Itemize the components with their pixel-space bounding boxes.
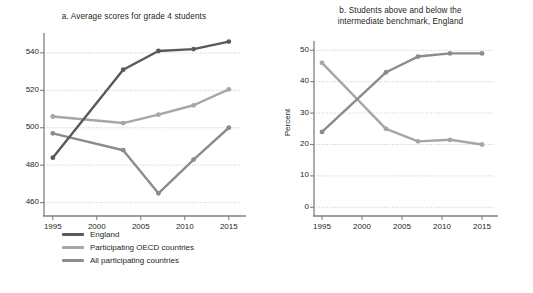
y-tick-label: 40 <box>280 76 309 85</box>
data-point-marker <box>448 51 453 56</box>
x-tick-label: 1995 <box>306 222 338 231</box>
chart-b-title-line2: intermediate benchmark, England <box>268 16 533 27</box>
data-point-marker <box>191 157 196 162</box>
series-line <box>53 128 229 194</box>
chart-panel-a: a. Average scores for grade 4 students S… <box>0 0 268 293</box>
data-point-marker <box>191 47 196 52</box>
data-point-marker <box>384 70 389 75</box>
chart-b-title: b. Students above and below the intermed… <box>268 5 533 27</box>
series-line <box>53 89 229 123</box>
data-point-marker <box>226 125 231 130</box>
chart-a-legend-item: England <box>62 228 194 241</box>
data-point-marker <box>480 51 485 56</box>
x-tick-label: 2000 <box>346 222 378 231</box>
data-point-marker <box>320 60 325 65</box>
data-point-marker <box>384 126 389 131</box>
y-tick-label: 540 <box>10 47 39 56</box>
data-point-marker <box>320 130 325 135</box>
x-tick-label: 2015 <box>213 222 245 231</box>
data-point-marker <box>226 39 231 44</box>
y-tick-label: 50 <box>280 45 309 54</box>
chart-b-svg <box>314 44 494 212</box>
data-point-marker <box>416 139 421 144</box>
legend-label: England <box>90 228 119 241</box>
y-tick-label: 10 <box>280 170 309 179</box>
chart-b-plot-area <box>314 44 494 212</box>
data-point-marker <box>480 142 485 147</box>
series-line <box>322 53 482 132</box>
data-point-marker <box>191 103 196 108</box>
data-point-marker <box>226 87 231 92</box>
legend-swatch-icon <box>62 246 84 249</box>
data-point-marker <box>156 112 161 117</box>
data-point-marker <box>416 54 421 59</box>
legend-swatch-icon <box>62 259 84 262</box>
data-point-marker <box>121 121 126 126</box>
x-tick-label: 2015 <box>466 222 498 231</box>
y-tick-label: 520 <box>10 85 39 94</box>
data-point-marker <box>156 49 161 54</box>
data-point-marker <box>121 148 126 153</box>
legend-label: All participating countries <box>90 254 179 267</box>
data-point-marker <box>50 131 55 136</box>
data-point-marker <box>50 155 55 160</box>
chart-a-svg <box>44 36 242 212</box>
chart-a-legend-item: All participating countries <box>62 254 194 267</box>
chart-b-title-line1: b. Students above and below the <box>268 5 533 16</box>
data-point-marker <box>50 114 55 119</box>
y-tick-label: 460 <box>10 197 39 206</box>
y-tick-label: 500 <box>10 122 39 131</box>
y-tick-label: 0 <box>280 202 309 211</box>
x-tick-label: 2005 <box>386 222 418 231</box>
legend-swatch-icon <box>62 233 84 236</box>
chart-a-title: a. Average scores for grade 4 students <box>0 11 268 22</box>
chart-a-plot-area <box>44 36 242 212</box>
chart-a-legend-item: Participating OECD countries <box>62 241 194 254</box>
y-tick-label: 480 <box>10 160 39 169</box>
data-point-marker <box>121 67 126 72</box>
legend-label: Participating OECD countries <box>90 241 194 254</box>
series-line <box>322 63 482 145</box>
data-point-marker <box>448 137 453 142</box>
data-point-marker <box>156 191 161 196</box>
x-tick-label: 2010 <box>426 222 458 231</box>
chart-b-y-axis-label: Percent <box>283 101 292 145</box>
chart-a-legend: EnglandParticipating OECD countriesAll p… <box>62 228 194 267</box>
chart-panel-b: b. Students above and below the intermed… <box>268 0 533 293</box>
